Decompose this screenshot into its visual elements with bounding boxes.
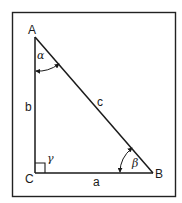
angle-label-alpha: α [37,49,45,62]
angle-label-beta: β [131,157,138,170]
vertex-label-a: A [28,23,36,37]
beta-arc-icon [120,148,132,172]
alpha-arc-icon [36,64,59,71]
angle-label-gamma: γ [47,152,54,165]
vertex-label-c: C [25,172,34,186]
right-triangle-diagram: A C B b c a α γ β [0,0,182,203]
side-label-b: b [25,100,32,114]
side-label-c: c [97,95,103,109]
side-label-a: a [93,175,100,189]
right-angle-marker [35,163,45,173]
vertex-label-b: B [155,167,163,181]
